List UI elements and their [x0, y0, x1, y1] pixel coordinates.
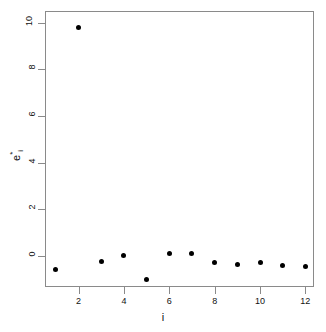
x-axis-tick-label: 2 [69, 296, 89, 306]
data-point [235, 262, 240, 267]
y-axis-tick [38, 209, 45, 210]
x-axis-tick [215, 287, 216, 294]
data-point [53, 267, 58, 272]
x-axis-tick-label: 10 [250, 296, 270, 306]
data-point [121, 253, 126, 258]
y-axis-tick-label: 6 [0, 109, 34, 119]
scatter-plot-figure: 0246810 24681012 e*i i [0, 0, 326, 332]
y-axis-tick [38, 23, 45, 24]
x-axis-tick-label: 8 [205, 296, 225, 306]
y-axis-title-text: e*i [9, 149, 26, 160]
x-axis-tick-label: 6 [159, 296, 179, 306]
plot-data-area [45, 11, 314, 287]
x-axis-tick [124, 287, 125, 294]
data-point [189, 251, 194, 256]
x-axis-title: i [0, 311, 326, 323]
y-axis-tick-label: 2 [0, 202, 34, 212]
y-axis-tick-label: 10 [0, 16, 34, 26]
data-point [212, 260, 217, 265]
y-axis-tick [38, 69, 45, 70]
data-point [76, 25, 81, 30]
data-point [99, 259, 104, 264]
data-point [280, 263, 285, 268]
x-axis-tick-label: 12 [295, 296, 315, 306]
y-axis-title-subscript: i [16, 149, 25, 151]
data-point [144, 277, 149, 282]
y-axis-tick-label: 0 [0, 249, 34, 259]
x-axis-tick [169, 287, 170, 294]
y-axis-title: e*i [6, 128, 28, 182]
y-axis-tick [38, 116, 45, 117]
y-axis-tick [38, 256, 45, 257]
data-point [303, 264, 308, 269]
data-point [167, 251, 172, 256]
x-axis-tick-label: 4 [114, 296, 134, 306]
data-point [258, 260, 263, 265]
x-axis-tick [305, 287, 306, 294]
y-axis-tick [38, 163, 45, 164]
y-axis-tick-label: 8 [0, 62, 34, 72]
x-axis-tick [79, 287, 80, 294]
x-axis-tick [260, 287, 261, 294]
